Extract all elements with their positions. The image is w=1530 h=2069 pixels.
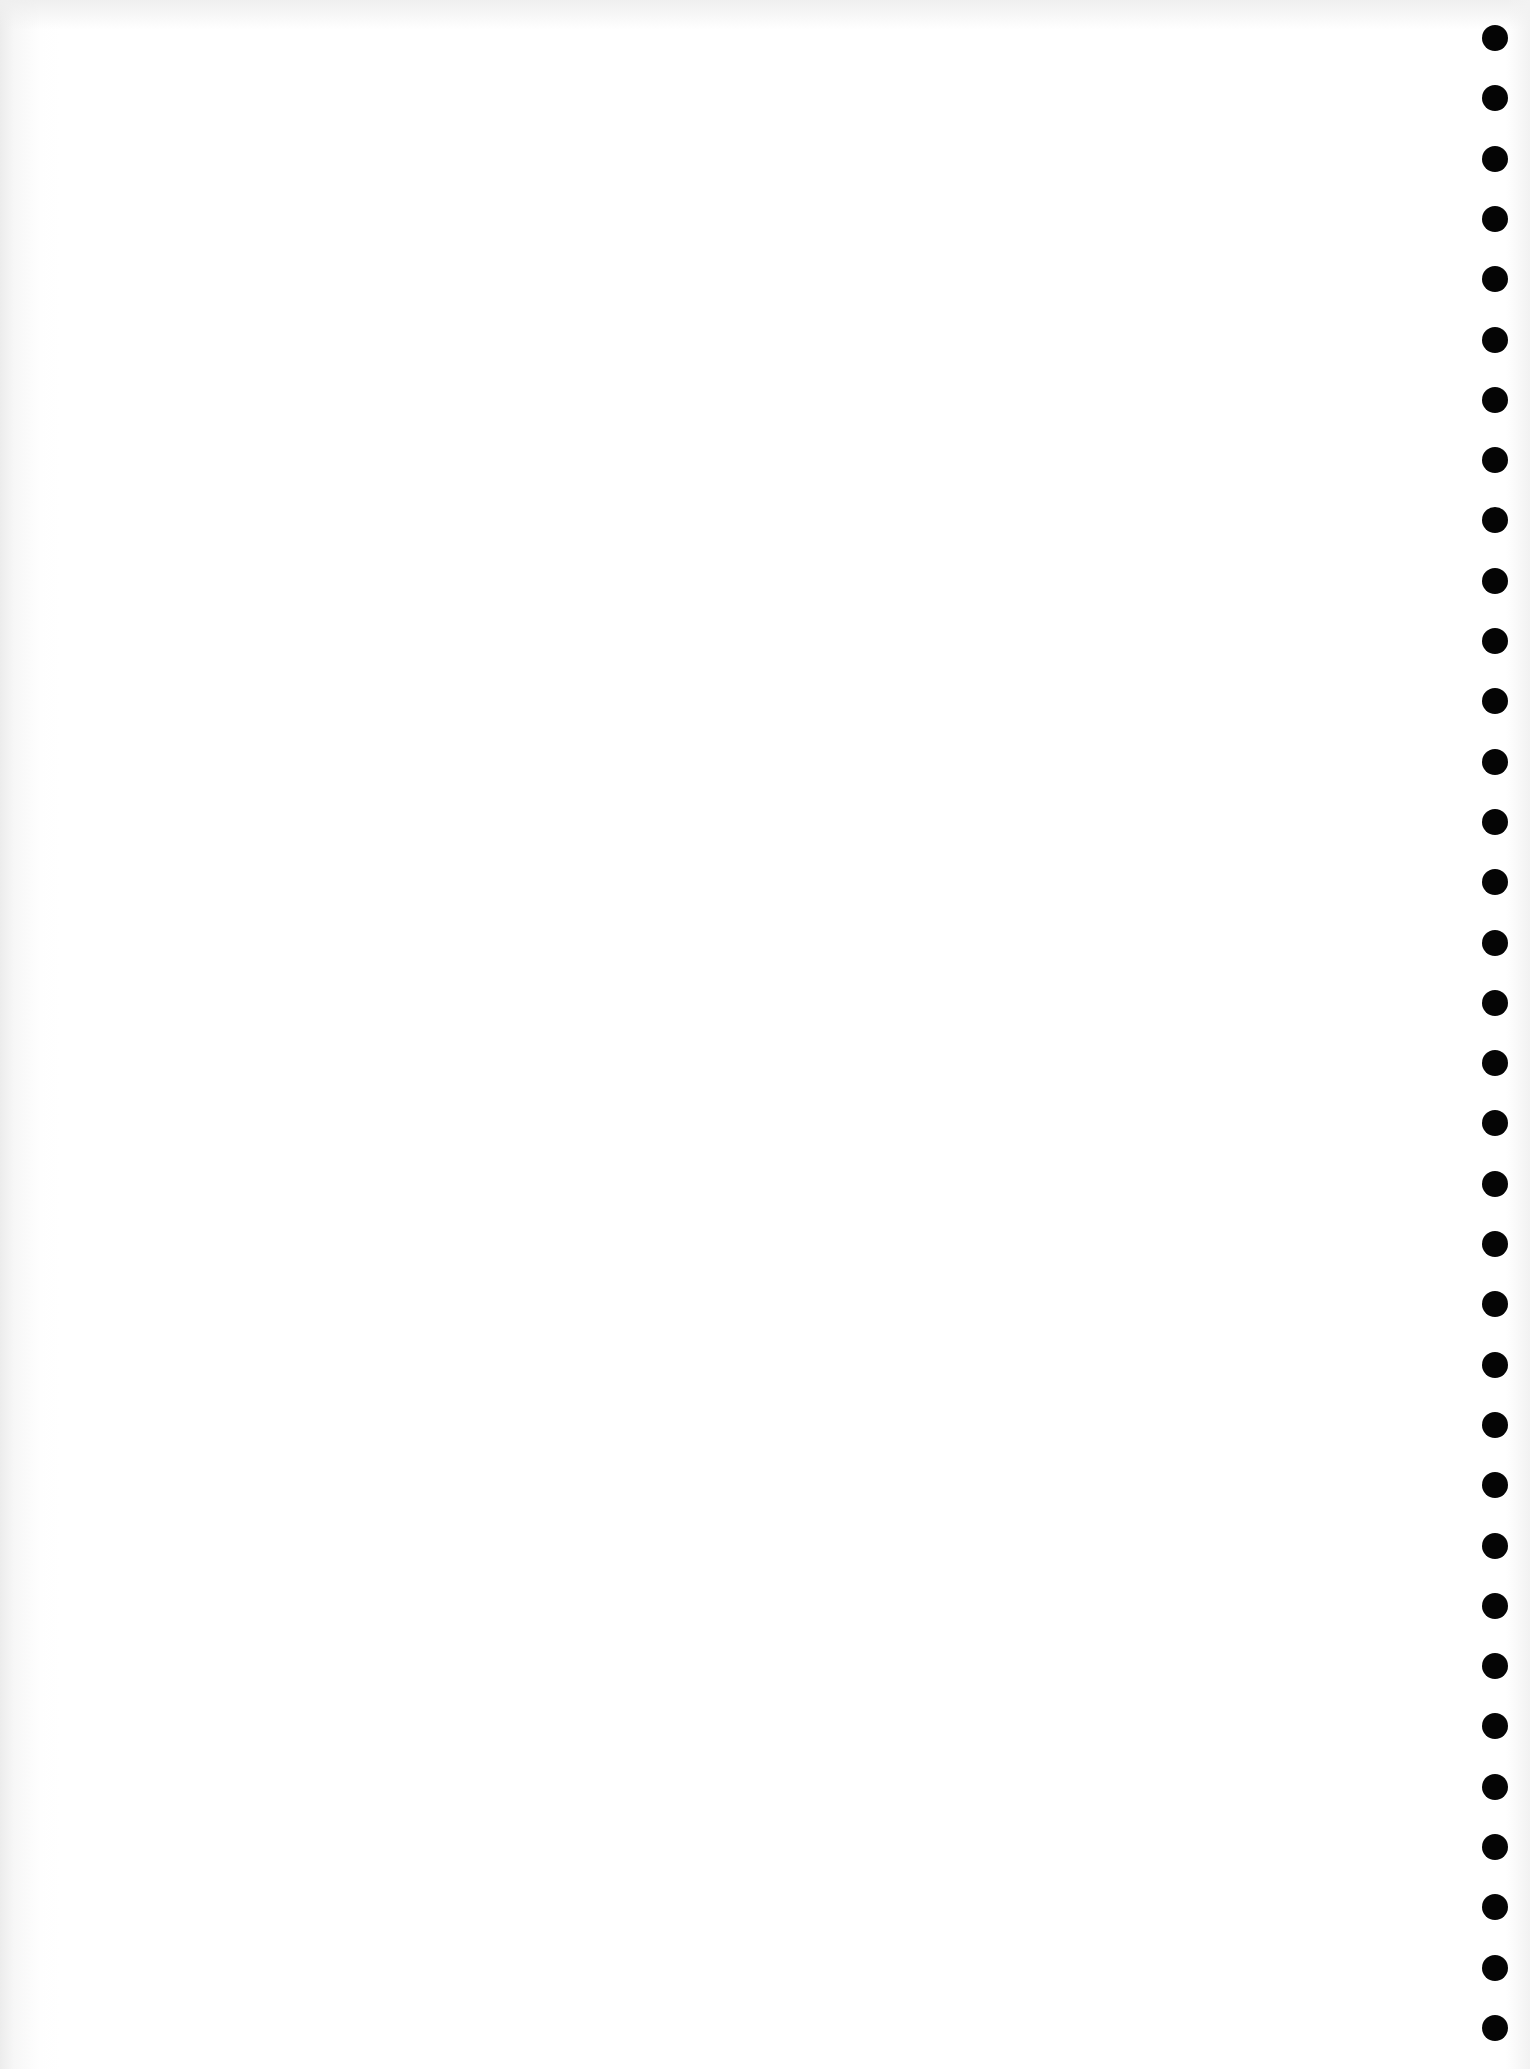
binder-hole-icon — [1482, 628, 1508, 654]
binder-hole-icon — [1482, 990, 1508, 1016]
binder-hole-icon — [1482, 1774, 1508, 1800]
binder-hole-icon — [1482, 869, 1508, 895]
binder-hole-icon — [1482, 1291, 1508, 1317]
binder-hole-icon — [1482, 1352, 1508, 1378]
binder-hole-icon — [1482, 85, 1508, 111]
binder-hole-icon — [1482, 1050, 1508, 1076]
binder-hole-icon — [1482, 1653, 1508, 1679]
binder-hole-icon — [1482, 146, 1508, 172]
binder-hole-icon — [1482, 1472, 1508, 1498]
binder-hole-icon — [1482, 930, 1508, 956]
binder-hole-icon — [1482, 1533, 1508, 1559]
binder-hole-icon — [1482, 809, 1508, 835]
binder-hole-icon — [1482, 568, 1508, 594]
binder-hole-icon — [1482, 507, 1508, 533]
binder-hole-icon — [1482, 447, 1508, 473]
binder-hole-icon — [1482, 1834, 1508, 1860]
binder-hole-icon — [1482, 688, 1508, 714]
binder-hole-icon — [1482, 1171, 1508, 1197]
binder-hole-icon — [1482, 327, 1508, 353]
scan-right-edge — [1506, 0, 1530, 2069]
binder-hole-icon — [1482, 266, 1508, 292]
binder-hole-icon — [1482, 206, 1508, 232]
binder-hole-icon — [1482, 1110, 1508, 1136]
scan-top-shadow — [0, 0, 1530, 30]
binder-hole-icon — [1482, 387, 1508, 413]
binder-hole-icon — [1482, 749, 1508, 775]
binder-hole-icon — [1482, 1231, 1508, 1257]
binder-hole-column — [1482, 0, 1508, 2069]
blank-page — [0, 0, 1530, 2069]
binder-hole-icon — [1482, 2015, 1508, 2041]
binder-hole-icon — [1482, 1894, 1508, 1920]
binder-hole-icon — [1482, 1593, 1508, 1619]
binder-hole-icon — [1482, 1955, 1508, 1981]
binder-hole-icon — [1482, 1412, 1508, 1438]
binder-hole-icon — [1482, 25, 1508, 51]
binder-hole-icon — [1482, 1713, 1508, 1739]
